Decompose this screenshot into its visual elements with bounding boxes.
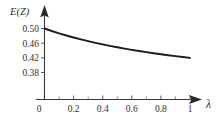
y-tick-label: 0.42 <box>22 53 39 63</box>
x-tick-marks <box>74 96 190 100</box>
y-tick-label: 0.46 <box>22 39 39 49</box>
x-tick-label: 0.2 <box>68 104 80 114</box>
x-tick-label: 0.4 <box>97 104 109 114</box>
y-tick-labels: 0.380.420.460.50 <box>22 24 39 78</box>
x-axis-group <box>36 95 202 104</box>
x-tick-label: 0.8 <box>155 104 167 114</box>
x-tick-label: 1 <box>188 104 193 114</box>
y-axis-title: E(Z) <box>9 6 30 18</box>
x-tick-label: 0 <box>37 104 42 114</box>
x-axis-title: λ <box>205 98 211 110</box>
x-tick-labels: 00.20.40.60.81 <box>37 104 193 114</box>
chart-figure: 0.380.420.460.50 00.20.40.60.81 E(Z) λ <box>0 0 219 120</box>
y-tick-label: 0.50 <box>22 24 39 34</box>
y-axis-group <box>40 5 49 100</box>
y-tick-label: 0.38 <box>22 68 39 78</box>
x-tick-label: 0.6 <box>126 104 138 114</box>
chart-plot-area: 0.380.420.460.50 00.20.40.60.81 E(Z) λ <box>0 0 219 120</box>
data-curve-ez <box>45 29 191 58</box>
